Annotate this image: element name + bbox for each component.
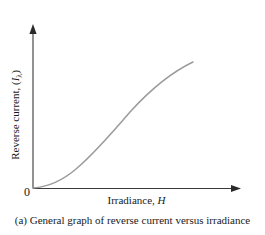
figure-caption: (a) General graph of reverse current ver… [0, 214, 265, 227]
figure-container: 0 Irradiance, H Reverse current, (Iλ) (a… [0, 0, 265, 235]
data-curve [33, 62, 193, 188]
y-axis-label-close: ) [9, 70, 21, 74]
y-axis-label-subscript: λ [15, 74, 24, 78]
y-axis-label-symbol: I [9, 78, 21, 82]
x-axis-label-symbol: H [158, 194, 166, 206]
x-axis-arrow-icon [231, 185, 241, 192]
y-axis-label-text: Reverse current, ( [9, 81, 21, 160]
x-axis-label-text: Irradiance, [107, 194, 154, 206]
x-axis-label: Irradiance, H [33, 194, 240, 206]
y-axis-arrow-icon [29, 24, 36, 34]
y-axis-label: Reverse current, (Iλ) [9, 70, 25, 160]
y-axis-label-container: Reverse current, (Iλ) [4, 40, 30, 190]
